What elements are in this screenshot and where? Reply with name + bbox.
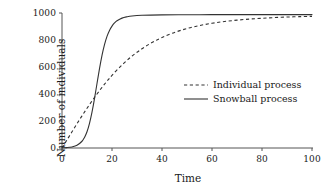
x-axis-tick-label: 20: [106, 154, 118, 164]
legend-item-snowball-process: Snowball process: [184, 92, 324, 106]
y-axis-tick-label: 1000: [0, 8, 56, 18]
y-axis-tick-label: 200: [0, 116, 56, 126]
x-axis-tick-label: 80: [256, 154, 268, 164]
x-axis-tick-label: 100: [303, 154, 320, 164]
x-axis-tick-label: 60: [206, 154, 218, 164]
legend-label-individual-process: Individual process: [213, 80, 301, 90]
legend-item-individual-process: Individual process: [184, 78, 324, 92]
y-axis-tick-label: 400: [0, 89, 56, 99]
chart-figure: 02004006008001000 020406080100 Number of…: [0, 0, 328, 195]
y-axis-title: Number of individuals: [55, 38, 67, 157]
legend-label-snowball-process: Snowball process: [213, 94, 297, 104]
legend-solid-line-icon: [184, 94, 208, 104]
y-axis-tick-label: 600: [0, 62, 56, 72]
y-axis-tick-label: 800: [0, 35, 56, 45]
chart-legend: Individual process Snowball process: [184, 78, 324, 106]
x-axis-tick-label: 40: [156, 154, 168, 164]
legend-dashed-line-icon: [184, 80, 208, 90]
x-axis-title: Time: [175, 172, 202, 184]
y-axis-tick-label: 0: [0, 143, 56, 153]
